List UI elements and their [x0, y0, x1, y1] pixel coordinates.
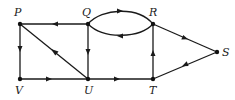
directed-graph: P Q R S V U T [0, 0, 235, 100]
node-R [151, 22, 155, 26]
label-T: T [149, 84, 158, 97]
arrowheads [18, 9, 189, 82]
arrow-down-left-icon [182, 61, 189, 66]
node-T [151, 77, 155, 81]
label-S: S [222, 46, 230, 59]
edge-Q-R-upper [88, 11, 153, 24]
nodes [18, 22, 219, 81]
label-P: P [13, 6, 22, 19]
arrow-up-icon [151, 50, 156, 56]
edge-R-Q-lower [88, 24, 153, 35]
arrow-down-icon [18, 46, 23, 52]
node-V [18, 77, 22, 81]
node-Q [86, 22, 90, 26]
arrow-down-icon [86, 49, 91, 55]
node-U [86, 77, 90, 81]
arrow-right-icon [46, 77, 52, 82]
arrow-right-icon [114, 77, 120, 82]
arrow-down-right-icon [181, 35, 188, 40]
arrow-left-icon [117, 34, 123, 39]
arrow-right-icon [117, 9, 123, 14]
labels: P Q R S V U T [13, 6, 230, 97]
label-R: R [148, 6, 157, 19]
node-P [18, 22, 22, 26]
edges [20, 11, 217, 79]
label-V: V [15, 84, 24, 97]
node-S [215, 50, 219, 54]
label-U: U [84, 84, 94, 97]
arrow-left-icon [52, 22, 58, 27]
label-Q: Q [82, 6, 91, 19]
